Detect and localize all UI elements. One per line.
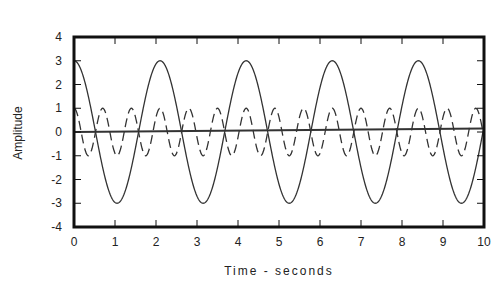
y-tick-label: 4 — [55, 30, 62, 44]
y-tick-label: 0 — [55, 125, 62, 139]
x-tick-label: 8 — [399, 235, 406, 249]
series-baseline — [74, 128, 484, 132]
x-tick-label: 5 — [276, 235, 283, 249]
x-tick-label: 6 — [317, 235, 324, 249]
y-tick-label: -4 — [51, 220, 62, 234]
x-tick-label: 1 — [112, 235, 119, 249]
x-tick-label: 7 — [358, 235, 365, 249]
y-tick-label: -1 — [51, 149, 62, 163]
x-tick-label: 3 — [194, 235, 201, 249]
chart: 43210-1-2-3-4 012345678910 Time - second… — [0, 0, 504, 298]
y-axis-title: Amplitude — [11, 106, 25, 160]
x-tick-label: 9 — [440, 235, 447, 249]
y-tick-label: 3 — [55, 54, 62, 68]
x-tick-label: 4 — [235, 235, 242, 249]
y-tick-label: 1 — [55, 101, 62, 115]
y-tick-label: -3 — [51, 196, 62, 210]
plot-area — [74, 37, 484, 227]
x-tick-label: 0 — [71, 235, 78, 249]
x-tick-label: 10 — [477, 235, 491, 249]
x-axis-title: Time - seconds — [224, 264, 334, 278]
y-tick-label: 2 — [55, 78, 62, 92]
x-tick-label: 2 — [153, 235, 160, 249]
y-tick-label: -2 — [51, 173, 62, 187]
